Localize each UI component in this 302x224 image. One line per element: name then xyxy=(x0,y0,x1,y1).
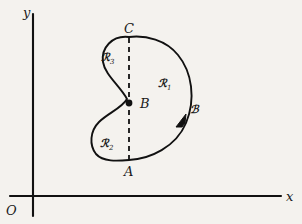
point-label-c: C xyxy=(124,22,134,35)
y-axis-label: y xyxy=(23,6,30,19)
region-r1-subscript: 1 xyxy=(167,84,171,92)
origin-label: O xyxy=(6,204,17,217)
curve-label: ℬ xyxy=(190,104,199,115)
region-label-r1: ℛ1 xyxy=(158,78,171,92)
diagram-svg xyxy=(0,0,302,224)
point-label-a: A xyxy=(124,165,133,178)
region-r2-subscript: 2 xyxy=(109,144,113,152)
point-label-b: B xyxy=(140,97,150,110)
region-r2-letter: ℛ xyxy=(100,137,109,150)
region-label-r3: ℛ3 xyxy=(101,52,114,66)
point-B-dot xyxy=(126,100,133,107)
region-r3-letter: ℛ xyxy=(101,51,110,64)
region-r3-subscript: 3 xyxy=(110,58,114,66)
x-axis-label: x xyxy=(286,190,293,203)
region-r1-letter: ℛ xyxy=(158,77,167,90)
region-label-r2: ℛ2 xyxy=(100,138,113,152)
